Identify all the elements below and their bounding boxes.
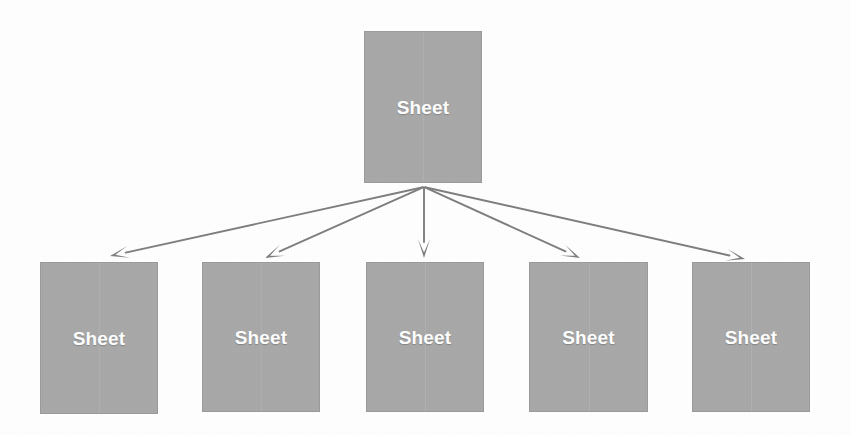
arrow-group <box>110 187 745 260</box>
node-child-label: Sheet <box>562 328 615 347</box>
node-child-label: Sheet <box>399 328 452 347</box>
arrow-to-child-5-shaft <box>425 187 729 255</box>
node-parent-sheet[interactable]: Sheet <box>364 31 482 183</box>
node-child-label: Sheet <box>235 328 288 347</box>
arrow-to-child-2-shaft <box>280 187 423 251</box>
node-child-sheet-5[interactable]: Sheet <box>692 262 810 412</box>
node-parent-label: Sheet <box>397 98 450 117</box>
node-child-sheet-1[interactable]: Sheet <box>40 262 158 414</box>
node-child-label: Sheet <box>725 328 778 347</box>
diagram-canvas: Sheet Sheet Sheet Sheet Sheet Sheet <box>0 0 851 435</box>
arrow-to-child-1-shaft <box>126 187 423 252</box>
node-child-sheet-4[interactable]: Sheet <box>529 262 648 412</box>
arrow-to-child-4-shaft <box>425 187 566 251</box>
node-child-label: Sheet <box>73 329 126 348</box>
node-child-sheet-3[interactable]: Sheet <box>366 262 484 412</box>
node-child-sheet-2[interactable]: Sheet <box>202 262 320 412</box>
